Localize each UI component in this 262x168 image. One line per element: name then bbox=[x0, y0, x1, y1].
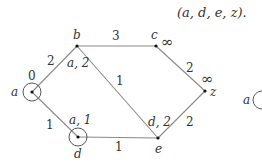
caption-path-text: (a, d, e, z). bbox=[177, 5, 247, 20]
node-c-name: c bbox=[151, 28, 158, 42]
node-d-name: d bbox=[74, 147, 82, 161]
node-c bbox=[154, 44, 157, 47]
node-z-distance: ∞ bbox=[201, 70, 214, 88]
edge-weight-b-c: 3 bbox=[112, 29, 120, 43]
next-diagram-node-a-ring bbox=[253, 91, 262, 109]
edge-c-z bbox=[156, 46, 205, 91]
node-e bbox=[156, 136, 159, 139]
edge-weight-a-b: 2 bbox=[47, 54, 55, 68]
node-a bbox=[30, 90, 33, 93]
node-b-distance: a, 2 bbox=[67, 56, 89, 70]
node-b-name: b bbox=[73, 28, 81, 42]
node-z bbox=[203, 89, 206, 92]
edge-weight-e-z: 2 bbox=[186, 115, 194, 129]
node-a-name: a bbox=[11, 85, 18, 99]
next-diagram-node-a-name: a bbox=[243, 93, 250, 107]
dijkstra-graph-diagram: (a, d, e, z). 2 1 3 1 2 1 2 a 0 b a, 2 c… bbox=[0, 0, 262, 168]
edge-weight-d-e: 1 bbox=[115, 140, 123, 154]
node-a-distance: 0 bbox=[28, 69, 36, 83]
edge-weight-c-z: 2 bbox=[186, 61, 194, 75]
node-b bbox=[75, 44, 78, 47]
node-e-distance: d, 2 bbox=[148, 115, 171, 129]
edge-weight-b-e: 1 bbox=[116, 74, 124, 88]
edge-weight-a-d: 1 bbox=[46, 118, 54, 132]
node-d-distance: a, 1 bbox=[69, 113, 91, 127]
edge-d-e bbox=[78, 137, 158, 138]
node-c-distance: ∞ bbox=[161, 33, 174, 51]
node-d bbox=[76, 135, 79, 138]
node-e-name: e bbox=[155, 142, 162, 156]
